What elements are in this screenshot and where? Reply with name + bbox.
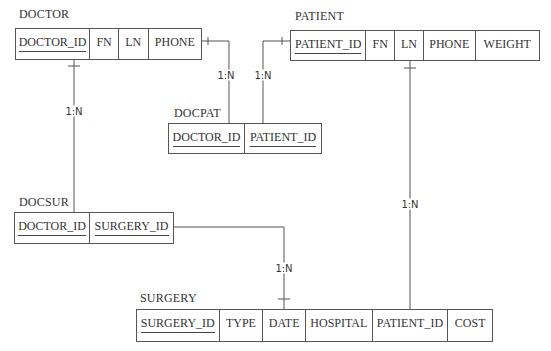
column-date: DATE (263, 310, 306, 341)
cardinality-docsur-surgery: 1:N (274, 263, 293, 274)
column-ln: LN (395, 31, 424, 60)
column-label: SURGERY_ID (95, 219, 169, 236)
column-cost: COST (448, 310, 492, 341)
rel-line-patient-docpat (263, 41, 290, 123)
column-surgery-id: SURGERY_ID (137, 310, 220, 341)
column-doctor-id: DOCTOR_ID (15, 213, 90, 243)
entity-table-patient: PATIENT_ID FN LN PHONE WEIGHT (290, 30, 540, 61)
entity-table-doctor: DOCTOR_ID FN LN PHONE (15, 28, 202, 60)
cardinality-patient-surgery: 1:N (400, 199, 419, 210)
column-label: PATIENT_ID (295, 37, 361, 54)
column-hospital: HOSPITAL (306, 310, 373, 341)
column-label: PHONE (155, 35, 195, 50)
column-label: PHONE (429, 37, 469, 52)
column-phone: PHONE (149, 29, 201, 59)
entity-label-doctor: DOCTOR (19, 7, 69, 22)
column-label: DOCTOR_ID (173, 130, 241, 147)
column-type: TYPE (220, 310, 264, 341)
column-label: LN (401, 37, 417, 52)
column-label: DOCTOR_ID (19, 35, 87, 52)
cardinality-doctor-docpat: 1:N (216, 70, 235, 81)
entity-table-surgery: SURGERY_ID TYPE DATE HOSPITAL PATIENT_ID… (136, 309, 493, 342)
column-doctor-id: DOCTOR_ID (16, 29, 90, 59)
column-label: FN (96, 35, 111, 50)
column-label: PATIENT_ID (377, 316, 443, 331)
column-label: HOSPITAL (310, 316, 367, 331)
column-phone: PHONE (424, 31, 476, 60)
column-patient-id: PATIENT_ID (291, 31, 366, 60)
column-patient-id: PATIENT_ID (245, 124, 321, 153)
column-label: DOCTOR_ID (18, 219, 86, 236)
column-label: FN (373, 37, 388, 52)
column-label: SURGERY_ID (141, 316, 215, 333)
entity-label-patient: PATIENT (295, 9, 344, 24)
column-weight: WEIGHT (476, 31, 539, 60)
entity-label-surgery: SURGERY (140, 291, 197, 306)
entity-table-docsur: DOCTOR_ID SURGERY_ID (14, 212, 174, 244)
cardinality-patient-docpat: 1:N (253, 70, 272, 81)
column-patient-id: PATIENT_ID (373, 310, 449, 341)
column-surgery-id: SURGERY_ID (90, 213, 173, 243)
column-label: WEIGHT (484, 37, 531, 52)
column-fn: FN (90, 29, 119, 59)
column-label: LN (125, 35, 141, 50)
entity-label-docpat: DOCPAT (174, 106, 221, 121)
er-diagram: DOCTOR DOCTOR_ID FN LN PHONE PATIENT PAT… (0, 0, 551, 351)
cardinality-doctor-docsur: 1:N (64, 106, 83, 117)
column-label: TYPE (226, 316, 256, 331)
entity-label-docsur: DOCSUR (19, 195, 69, 210)
column-doctor-id: DOCTOR_ID (169, 124, 245, 153)
column-label: DATE (269, 316, 300, 331)
column-label: PATIENT_ID (250, 130, 316, 147)
entity-table-docpat: DOCTOR_ID PATIENT_ID (168, 123, 322, 154)
column-label: COST (455, 316, 486, 331)
column-fn: FN (366, 31, 395, 60)
column-ln: LN (119, 29, 149, 59)
